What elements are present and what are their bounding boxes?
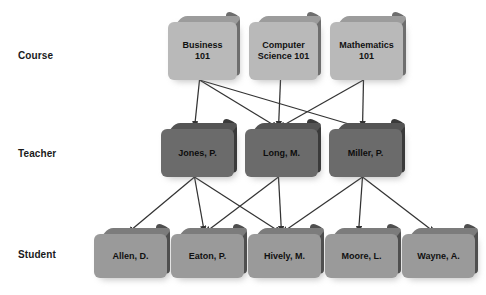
course-label-line1: Mathematics <box>339 40 394 50</box>
student-node-label: Wayne, A. <box>402 234 475 278</box>
teacher-node-jones-p[interactable]: Jones, P. <box>161 123 237 177</box>
connector-t2-s3 <box>279 177 282 233</box>
course-label-line1: Computer <box>262 40 305 50</box>
course-node-label: ComputerScience 101 <box>249 22 318 80</box>
course-label-line1: Business <box>182 40 222 50</box>
connector-c3-t2 <box>279 80 364 128</box>
student-node-moore-l[interactable]: Moore, L. <box>325 228 401 278</box>
connector-c1-t2 <box>200 80 279 128</box>
connector-t3-s3 <box>282 177 363 233</box>
row-label-teacher: Teacher <box>18 148 56 159</box>
course-label-line2: 101 <box>359 51 374 61</box>
student-node-eaton-p[interactable]: Eaton, P. <box>171 228 247 278</box>
course-node-label: Mathematics101 <box>330 22 403 80</box>
row-label-student: Student <box>18 249 56 260</box>
student-node-label: Moore, L. <box>325 234 398 278</box>
connector-t3-s5 <box>363 177 436 233</box>
connector-c3-t3 <box>363 80 364 128</box>
teacher-node-label: Jones, P. <box>161 129 234 177</box>
student-node-allen-d[interactable]: Allen, D. <box>94 228 170 278</box>
teacher-node-miller-p[interactable]: Miller, P. <box>329 123 405 177</box>
student-node-label: Eaton, P. <box>171 234 244 278</box>
student-node-label: Hively, M. <box>248 234 321 278</box>
teacher-node-label: Long, M. <box>245 129 318 177</box>
connector-t1-s2 <box>195 177 205 233</box>
row-label-course: Course <box>18 50 53 61</box>
course-node-mathematics-101[interactable]: Mathematics101 <box>330 16 406 80</box>
teacher-node-long-m[interactable]: Long, M. <box>245 123 321 177</box>
teacher-node-label: Miller, P. <box>329 129 402 177</box>
course-node-computer-science-101[interactable]: ComputerScience 101 <box>249 16 321 80</box>
course-label-line2: Science 101 <box>258 51 310 61</box>
student-node-label: Allen, D. <box>94 234 167 278</box>
course-node-business-101[interactable]: Business101 <box>168 16 240 80</box>
connector-c1-t1 <box>195 80 200 128</box>
course-node-label: Business101 <box>168 22 237 80</box>
course-label-line2: 101 <box>195 51 210 61</box>
student-node-wayne-a[interactable]: Wayne, A. <box>402 228 478 278</box>
student-node-hively-m[interactable]: Hively, M. <box>248 228 324 278</box>
diagram-canvas: Course Teacher Student Business101 Compu… <box>0 0 486 295</box>
connector-t3-s4 <box>359 177 363 233</box>
